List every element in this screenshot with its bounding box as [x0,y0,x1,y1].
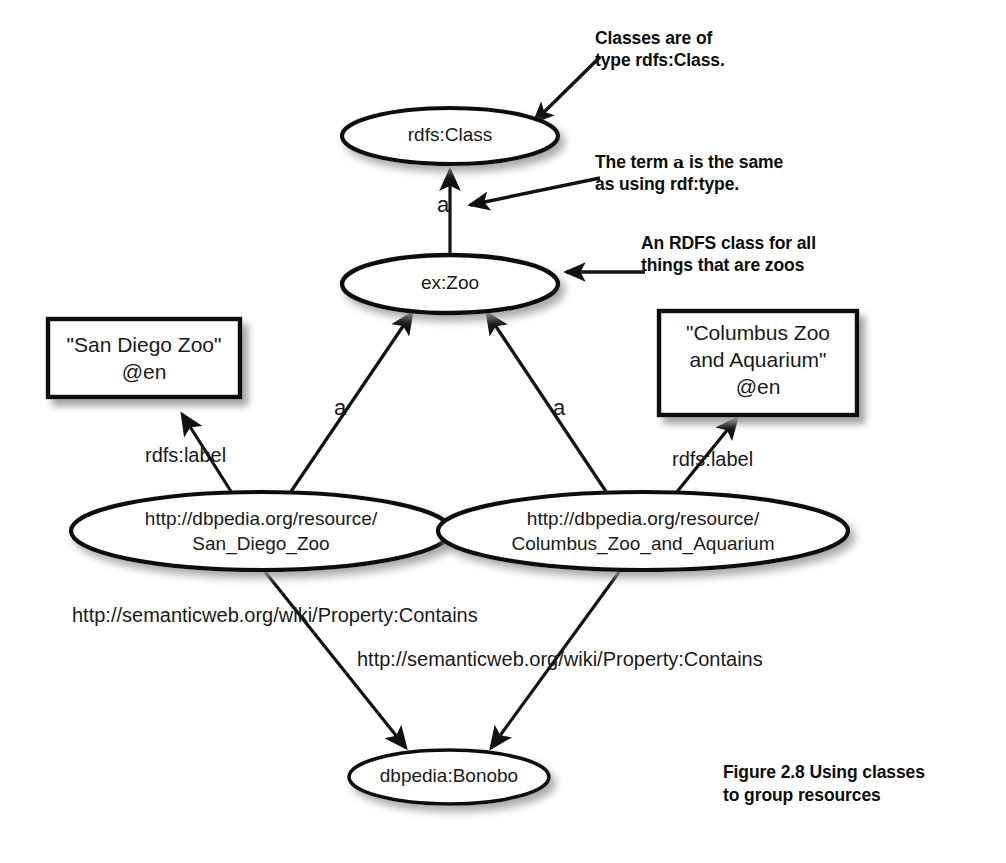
literal-box-san-diego[interactable] [48,319,240,397]
edge-label-zoo-type-class: a [437,192,449,218]
annotation-term-a-post: is the same [684,152,783,172]
edge-label-san-diego-type-zoo: a [334,395,346,421]
annotation-zoo-class-note-line1: An RDFS class for all [641,233,816,255]
annotation-classes-note: Classes are of type rdfs:Class. [595,28,725,72]
annotation-term-a-note-line2: as using rdf:type. [595,174,783,196]
annotation-classes-note-line2: type rdfs:Class. [595,50,725,72]
figure-caption: Figure 2.8 Using classes to group resour… [723,761,925,807]
edge-columbus-type-zoo [487,313,607,493]
edge-label-columbus-contains: http://semanticweb.org/wiki/Property:Con… [357,648,763,671]
edge-label-san-diego-contains: http://semanticweb.org/wiki/Property:Con… [72,604,478,627]
edge-sandiego-type-zoo [290,313,412,493]
annotation-term-a-note: The term a is the same as using rdf:type… [595,152,783,196]
rdf-graph-diagram: rdfs:Class --> ex:Zoo --> ex:Zoo --> "Sa… [0,0,1006,863]
edge-label-columbus-rdfs-label: rdfs:label [672,448,753,471]
callout-arrow-term-a-note [470,178,600,205]
diagram-canvas: rdfs:Class --> ex:Zoo --> ex:Zoo --> "Sa… [0,0,1006,863]
node-ex-zoo[interactable] [342,255,558,313]
annotation-term-a-keyword: a [673,152,684,172]
annotation-classes-note-line1: Classes are of [595,28,725,50]
annotation-term-a-pre: The term [595,152,673,172]
edge-label-san-diego-rdfs-label: rdfs:label [145,444,226,467]
literal-box-columbus[interactable] [659,311,857,415]
annotation-zoo-class-note-line2: things that are zoos [641,255,816,277]
figure-caption-line2: to group resources [723,784,925,807]
edge-label-columbus-type-zoo: a [553,395,565,421]
annotation-zoo-class-note: An RDFS class for all things that are zo… [641,233,816,277]
node-san-diego-resource[interactable] [71,492,451,570]
node-dbpedia-bonobo[interactable] [349,750,549,804]
annotation-term-a-note-line1: The term a is the same [595,152,783,174]
node-columbus-resource[interactable] [438,492,848,570]
figure-caption-line1: Figure 2.8 Using classes [723,761,925,784]
callout-arrow-classes-note [534,57,600,122]
node-rdfs-class[interactable] [342,108,558,164]
